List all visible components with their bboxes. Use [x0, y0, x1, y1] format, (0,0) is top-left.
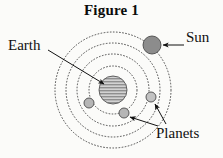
- planets-leader-arrow-bottom: [130, 117, 158, 126]
- planet-bottom: [119, 108, 129, 118]
- sun-body: [143, 36, 161, 54]
- celestial-bodies-group: [84, 36, 161, 118]
- figure-container: Figure 1: [0, 0, 223, 158]
- planets-leader-arrow-right: [155, 104, 166, 124]
- planet-right: [146, 92, 156, 102]
- planets-label: Planets: [156, 126, 199, 141]
- earth-body: [99, 76, 127, 104]
- earth-label: Earth: [8, 38, 40, 53]
- sun-label: Sun: [186, 30, 209, 45]
- planet-left: [84, 98, 94, 108]
